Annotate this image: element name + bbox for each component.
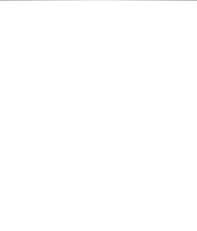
top-divider: [0, 0, 197, 1]
